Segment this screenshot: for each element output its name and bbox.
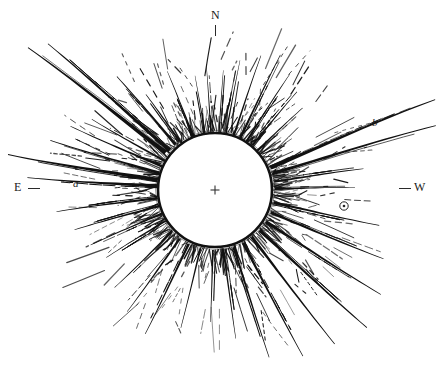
cardinal-tick-east — [28, 188, 40, 189]
coronal-filament — [199, 265, 200, 288]
streamer-label-b: b — [372, 117, 378, 128]
streamer-label-a: a — [73, 178, 79, 189]
corona-drawing — [0, 0, 440, 367]
eclipse-corona-figure: N E W a b — [0, 0, 440, 367]
cardinal-label-east: E — [14, 181, 21, 193]
cardinal-tick-west — [399, 188, 411, 189]
cardinal-label-west: W — [414, 181, 425, 193]
cardinal-label-north: N — [211, 9, 220, 21]
cardinal-tick-north — [215, 25, 216, 36]
star-symbol-dot — [343, 205, 346, 208]
